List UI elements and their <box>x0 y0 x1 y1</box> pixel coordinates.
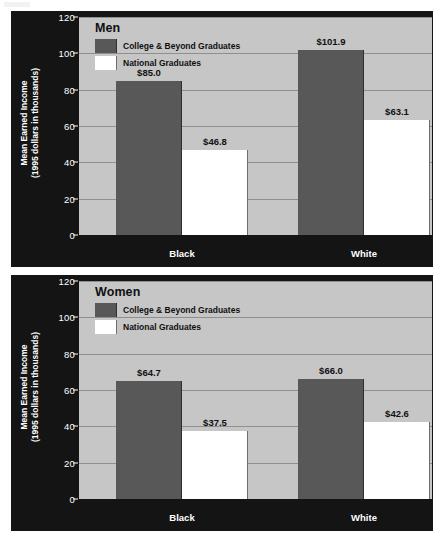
bar-value-label: $64.7 <box>116 367 182 378</box>
plot-area: $64.7$37.5$66.0$42.6WomenCollege & Beyon… <box>79 281 432 499</box>
legend-swatch <box>95 39 117 53</box>
legend-label: National Graduates <box>123 58 201 68</box>
chart-title: Women <box>95 285 240 299</box>
y-axis-tick-mark <box>73 281 78 282</box>
bar <box>182 150 248 235</box>
scan-artifact <box>4 2 30 7</box>
bar-value-label: $66.0 <box>298 365 364 376</box>
y-axis-tick-mark <box>73 53 78 54</box>
legend-label: College & Beyond Graduates <box>123 41 240 51</box>
y-axis-tick-label: 80 <box>29 84 75 95</box>
bar <box>298 379 364 499</box>
y-axis-tick-mark <box>73 462 78 463</box>
y-axis-tick-label: 0 <box>29 494 75 505</box>
plot-area: $85.0$46.8$101.9$63.1MenCollege & Beyond… <box>79 17 432 235</box>
y-axis-tick-label: 60 <box>29 385 75 396</box>
y-axis-tick-mark <box>73 126 78 127</box>
x-axis-category-label: Black <box>169 248 194 259</box>
y-axis-tick-label: 20 <box>29 193 75 204</box>
bar-value-label: $101.9 <box>298 36 364 47</box>
bar <box>364 120 430 235</box>
chart-legend: WomenCollege & Beyond GraduatesNational … <box>95 285 240 334</box>
chart-panel-men: Mean Earned Income(1995 dollars in thous… <box>11 11 433 267</box>
y-axis-tick-mark <box>73 499 78 500</box>
y-axis-tick-label: 40 <box>29 157 75 168</box>
y-axis-tick-label: 120 <box>29 276 75 287</box>
bar <box>298 50 364 235</box>
chart-legend: MenCollege & Beyond GraduatesNational Gr… <box>95 21 240 70</box>
y-axis-tick-mark <box>73 89 78 90</box>
y-axis-tick-mark <box>73 235 78 236</box>
y-axis-tick-mark <box>73 198 78 199</box>
y-axis-tick-label: 100 <box>29 312 75 323</box>
legend-item: National Graduates <box>95 320 240 334</box>
y-axis-tick-mark <box>73 317 78 318</box>
y-axis-tick-mark <box>73 162 78 163</box>
y-axis-tick-mark <box>73 17 78 18</box>
y-axis-tick-label: 80 <box>29 348 75 359</box>
chart-panel-women: Mean Earned Income(1995 dollars in thous… <box>11 275 433 531</box>
bar <box>182 431 248 499</box>
bar <box>116 81 182 235</box>
gridline <box>79 354 432 355</box>
gridline <box>79 281 432 282</box>
y-axis-tick-label: 60 <box>29 121 75 132</box>
legend-swatch <box>95 320 117 334</box>
y-axis-tick-mark <box>73 426 78 427</box>
bar-value-label: $42.6 <box>364 408 430 419</box>
x-axis-category-label: White <box>351 248 377 259</box>
bar <box>364 422 430 499</box>
y-axis-tick-label: 100 <box>29 48 75 59</box>
y-axis-tick-label: 20 <box>29 457 75 468</box>
legend-swatch <box>95 303 117 317</box>
chart-title: Men <box>95 21 240 35</box>
y-axis-tick-mark <box>73 390 78 391</box>
figure-root: Mean Earned Income(1995 dollars in thous… <box>0 0 443 542</box>
legend-swatch <box>95 56 117 70</box>
x-axis-category-label: Black <box>169 512 194 523</box>
bar-value-label: $46.8 <box>182 136 248 147</box>
y-axis-tick-label: 0 <box>29 230 75 241</box>
gridline <box>79 17 432 18</box>
legend-label: College & Beyond Graduates <box>123 305 240 315</box>
bar-value-label: $37.5 <box>182 417 248 428</box>
y-axis-tick-mark <box>73 353 78 354</box>
bar-value-label: $63.1 <box>364 106 430 117</box>
bar <box>116 381 182 499</box>
legend-item: College & Beyond Graduates <box>95 303 240 317</box>
legend-item: National Graduates <box>95 56 240 70</box>
y-axis-tick-label: 40 <box>29 421 75 432</box>
legend-label: National Graduates <box>123 322 201 332</box>
x-axis-category-label: White <box>351 512 377 523</box>
y-axis-tick-label: 120 <box>29 12 75 23</box>
legend-item: College & Beyond Graduates <box>95 39 240 53</box>
